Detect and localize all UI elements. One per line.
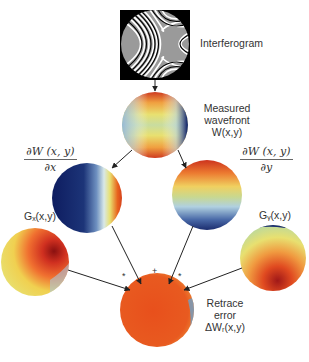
operator-center: + — [152, 266, 157, 276]
gy-label: Gᵧ(x,y) — [255, 209, 295, 221]
dy-derivative-image — [170, 158, 245, 233]
operator-right: * — [178, 271, 182, 281]
dx-derivative-label: ∂W (x, y) ∂x — [24, 145, 77, 174]
retrace-error-image — [118, 272, 196, 350]
retrace-error-label: Retrace error ΔWᵣ(x,y) — [195, 297, 255, 333]
operator-left: * — [122, 271, 126, 281]
interferogram-label: Interferogram — [200, 37, 275, 49]
gx-image — [0, 226, 72, 300]
dy-derivative-label: ∂W (x, y) ∂y — [240, 145, 293, 174]
gx-label: Gₓ(x,y) — [20, 210, 60, 222]
measured-wavefront-image — [120, 90, 190, 160]
diagram-canvas — [0, 0, 309, 362]
interferogram-image — [120, 10, 190, 80]
measured-wavefront-label: Measured wavefront W(x,y) — [193, 102, 261, 138]
gy-image — [238, 222, 309, 295]
